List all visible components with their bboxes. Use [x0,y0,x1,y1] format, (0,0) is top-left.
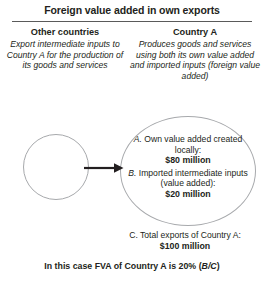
column-description-country-a: Produces goods and services using both i… [128,39,262,81]
item-b-text: Imported intermediate inputs (value adde… [136,168,247,189]
item-a-text: Own value added created locally: [142,134,242,155]
breakdown-item-a-label: A. Own value added created locally: [126,134,250,155]
item-a-amount: $80 million [126,155,250,166]
column-description-other-countries: Export intermediate inputs to Country A … [2,39,128,71]
item-c-amount: $100 million [110,241,260,252]
total-exports-block: C. Total exports of Country A: $100 mill… [110,230,260,252]
figure-footnote: In this case FVA of Country A is 20% (B/… [0,261,264,272]
page-title: Foreign value added in own exports [0,4,264,17]
other-countries-circle [23,134,89,200]
note-suffix: ) [217,261,220,271]
flow-arrow-icon [84,161,124,175]
note-prefix: In this case FVA of Country A is 20% ( [44,261,201,271]
note-ratio: B/C [202,261,217,271]
item-b-amount: $20 million [126,189,250,200]
fva-summary-note: In this case FVA of Country A is 20% (B/… [0,261,264,272]
title-divider [12,21,252,22]
country-a-breakdown: A. Own value added created locally: $80 … [126,134,250,200]
column-heading-country-a: Country A [128,26,262,38]
item-c-text: Total exports of Country A: [138,230,241,240]
item-c-tag: C. [129,230,138,240]
item-a-tag: A. [134,134,142,144]
column-country-a: Country A Produces goods and services us… [128,26,262,81]
breakdown-item-b-label: B. Imported intermediate inputs (value a… [126,168,250,189]
column-heading-other-countries: Other countries [2,26,128,38]
column-other-countries: Other countries Export intermediate inpu… [2,26,128,71]
total-label: C. Total exports of Country A: [110,230,260,241]
figure-title-block: Foreign value added in own exports [0,4,264,17]
